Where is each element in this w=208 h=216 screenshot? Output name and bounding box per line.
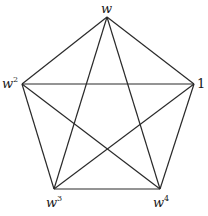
edge-right-bottom-right bbox=[160, 84, 194, 189]
vertex-exponent-bottom-left: 3 bbox=[57, 194, 62, 203]
vertex-exponent-bottom-right: 4 bbox=[164, 194, 169, 203]
edge-top-right bbox=[107, 17, 194, 84]
vertex-exponent-left: 2 bbox=[13, 75, 18, 84]
vertex-label-right: 1 bbox=[197, 76, 205, 91]
vertex-label-bottom-right: w bbox=[153, 195, 164, 210]
edge-left-bottom-left bbox=[22, 84, 54, 189]
vertex-labels: ww21w3w4 bbox=[2, 1, 205, 210]
edge-right-bottom-left bbox=[54, 84, 194, 189]
edge-top-left bbox=[22, 17, 107, 84]
edge-left-bottom-right bbox=[22, 84, 160, 189]
edge-top-bottom-right bbox=[107, 17, 160, 189]
k5-graph: ww21w3w4 bbox=[0, 0, 208, 216]
vertex-label-left: w bbox=[2, 76, 13, 91]
vertex-label-bottom-left: w bbox=[46, 195, 57, 210]
edges bbox=[22, 17, 194, 189]
vertex-label-top: w bbox=[101, 1, 112, 16]
edge-top-bottom-left bbox=[54, 17, 107, 189]
